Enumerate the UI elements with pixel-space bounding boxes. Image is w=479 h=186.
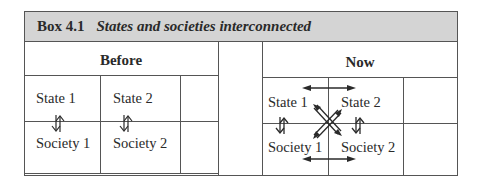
up-down-arrow-icon: [352, 117, 364, 134]
up-down-arrow-icon: [276, 117, 288, 134]
now-arrows: [0, 0, 479, 186]
